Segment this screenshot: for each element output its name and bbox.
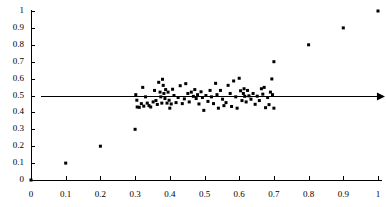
data-point	[30, 179, 33, 182]
data-point	[156, 103, 159, 106]
data-point	[266, 96, 269, 99]
data-point	[190, 91, 193, 94]
data-point	[186, 92, 189, 95]
data-point	[252, 92, 255, 95]
plot-area	[0, 0, 386, 207]
data-point	[138, 106, 141, 109]
y-axis-tick-label: 0.8	[0, 40, 24, 49]
data-point	[204, 94, 207, 97]
data-point	[246, 89, 249, 92]
data-point	[166, 102, 169, 105]
data-point	[230, 105, 233, 108]
data-point	[161, 78, 164, 81]
x-axis-tick-label: 0.6	[224, 190, 254, 199]
data-point	[264, 106, 267, 109]
data-point	[195, 97, 198, 100]
x-axis-tick-label: 0.1	[51, 190, 81, 199]
data-point	[307, 43, 310, 46]
y-axis-tick-label: 0.6	[0, 74, 24, 83]
data-point	[272, 107, 275, 110]
data-point	[342, 26, 345, 29]
data-point	[162, 92, 165, 95]
data-point	[209, 89, 212, 92]
data-point	[197, 102, 200, 105]
x-axis-tick-label: 0.7	[259, 190, 289, 199]
data-point	[159, 95, 162, 98]
y-axis-tick-label: 0.5	[0, 91, 24, 100]
data-point	[142, 105, 145, 108]
x-axis-tick-label: 0.9	[328, 190, 358, 199]
data-point	[196, 93, 199, 96]
data-point	[256, 95, 259, 98]
data-point	[171, 88, 174, 91]
data-point	[260, 87, 263, 90]
data-point	[154, 99, 157, 102]
data-point	[238, 77, 241, 80]
data-point	[268, 103, 271, 106]
data-point	[141, 86, 144, 89]
scatter-chart: 00.10.20.30.40.50.60.70.80.9100.10.20.30…	[0, 0, 386, 207]
data-point	[206, 100, 209, 103]
data-point	[247, 94, 250, 97]
y-axis-tick-label: 0	[0, 175, 24, 184]
data-point	[152, 100, 155, 103]
data-point	[134, 128, 137, 131]
data-point	[232, 79, 235, 82]
data-point	[170, 102, 173, 105]
data-point	[162, 84, 165, 87]
data-point	[227, 84, 230, 87]
data-point	[236, 107, 239, 110]
data-point	[201, 96, 204, 99]
data-point	[193, 88, 196, 91]
x-axis-tick-label: 0.2	[85, 190, 115, 199]
y-axis-tick-label: 0.4	[0, 107, 24, 116]
data-point	[240, 99, 243, 102]
data-point	[202, 109, 205, 112]
data-point	[217, 107, 220, 110]
data-point	[221, 98, 224, 101]
data-point	[149, 105, 152, 108]
x-axis-tick-label: 0.3	[120, 190, 150, 199]
data-point	[225, 101, 228, 104]
data-point	[234, 95, 237, 98]
x-axis-tick-label: 0	[16, 190, 46, 199]
data-point	[192, 95, 195, 98]
arrowhead-icon	[377, 93, 385, 101]
data-point	[168, 107, 171, 110]
data-point	[258, 99, 261, 102]
data-point	[163, 97, 166, 100]
y-axis-tick-label: 0.2	[0, 141, 24, 150]
data-point	[153, 89, 156, 92]
data-point	[160, 102, 163, 105]
data-point	[254, 103, 257, 106]
data-point	[242, 92, 245, 95]
data-point	[214, 82, 217, 85]
series-central-cluster	[134, 77, 275, 112]
data-point	[135, 99, 138, 102]
data-point	[212, 102, 215, 105]
data-point	[243, 87, 246, 90]
x-axis-tick-label: 0.5	[190, 190, 220, 199]
data-point	[175, 101, 178, 104]
y-axis-tick-label: 0.9	[0, 23, 24, 32]
data-point	[179, 84, 182, 87]
y-axis-tick-label: 0.1	[0, 158, 24, 167]
data-point	[200, 90, 203, 93]
data-point	[134, 93, 137, 96]
data-point	[219, 89, 222, 92]
data-point	[167, 91, 170, 94]
data-point	[99, 145, 102, 148]
x-axis-tick-label: 0.8	[294, 190, 324, 199]
data-point	[157, 81, 160, 84]
data-point	[261, 93, 264, 96]
y-axis-tick-label: 0.7	[0, 57, 24, 66]
data-point	[229, 92, 232, 95]
x-axis-tick-label: 1	[363, 190, 386, 199]
data-point	[222, 104, 225, 107]
data-point	[64, 162, 67, 165]
mean-line-annotation	[41, 93, 385, 101]
y-axis-tick-label: 1	[0, 6, 24, 15]
data-point	[168, 99, 171, 102]
data-point	[172, 94, 175, 97]
data-point	[263, 86, 266, 89]
